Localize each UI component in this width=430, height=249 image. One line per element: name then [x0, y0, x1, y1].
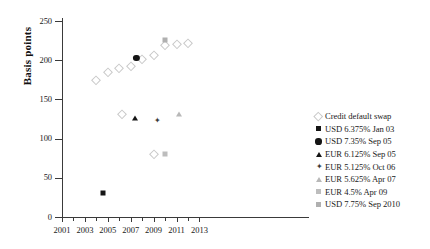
legend-label: USD 7.35% Sep 05 — [325, 136, 392, 146]
data-point — [116, 65, 123, 72]
y-tick-label: 50 — [8, 173, 52, 182]
legend-label: Credit default swap — [325, 111, 391, 121]
data-point — [139, 56, 146, 63]
data-point — [185, 40, 192, 47]
legend-marker-square-gray-icon — [312, 186, 325, 199]
marker-square-gray2-icon — [316, 202, 321, 207]
data-point — [93, 77, 100, 84]
x-tick-minor — [73, 217, 74, 221]
legend-label: EUR 4.5% Apr 09 — [325, 187, 387, 197]
data-point — [132, 116, 138, 121]
x-tick — [177, 217, 178, 222]
data-point — [127, 63, 134, 70]
marker-triangle-filled — [132, 116, 138, 121]
x-tick — [154, 217, 155, 222]
x-tick-minor — [142, 217, 143, 221]
plot-area — [62, 21, 302, 217]
data-point — [173, 40, 180, 47]
legend-label: EUR 5.125% Oct 06 — [325, 162, 395, 172]
legend-marker-star4-icon: ✦ — [312, 160, 325, 173]
x-tick-minor — [188, 217, 189, 221]
marker-diamond-open — [126, 62, 135, 71]
data-point — [150, 51, 157, 58]
legend-item[interactable]: USD 6.375% Jan 03 — [312, 123, 430, 136]
marker-diamond-open — [149, 150, 158, 159]
y-tick — [55, 60, 62, 61]
x-tick — [108, 217, 109, 222]
marker-square-gray — [163, 152, 168, 157]
marker-square-filled — [101, 191, 106, 196]
marker-square-filled-icon — [316, 126, 321, 131]
data-point — [163, 152, 168, 157]
y-tick — [55, 217, 62, 218]
marker-square-gray-icon — [316, 189, 321, 194]
legend-marker-circle-filled-icon — [312, 135, 325, 148]
legend-label: EUR 5.625% Apr 07 — [325, 174, 396, 184]
chart-legend: Credit default swapUSD 6.375% Jan 03USD … — [312, 110, 430, 211]
y-tick-label: 100 — [8, 134, 52, 143]
marker-diamond-open — [117, 110, 126, 119]
legend-marker-square-filled-icon — [312, 123, 325, 136]
legend-item[interactable]: USD 7.75% Sep 2010 — [312, 198, 430, 211]
x-tick — [131, 217, 132, 222]
marker-star4-icon: ✦ — [316, 164, 322, 170]
x-tick-minor — [165, 217, 166, 221]
legend-label: EUR 6.125% Sep 05 — [325, 149, 396, 159]
y-tick — [55, 178, 62, 179]
chart-figure: Basis points 050100150200250 20012003200… — [0, 0, 430, 249]
x-tick-label: 2013 — [179, 226, 219, 235]
legend-item[interactable]: EUR 5.625% Apr 07 — [312, 173, 430, 186]
legend-label: USD 7.75% Sep 2010 — [325, 199, 400, 209]
x-tick — [199, 217, 200, 222]
x-tick-minor — [119, 217, 120, 221]
y-tick-label: 0 — [8, 213, 52, 222]
x-tick — [62, 217, 63, 222]
legend-item[interactable]: EUR 6.125% Sep 05 — [312, 148, 430, 161]
marker-diamond-open — [103, 67, 112, 76]
legend-label: USD 6.375% Jan 03 — [325, 124, 394, 134]
legend-item[interactable]: EUR 4.5% Apr 09 — [312, 186, 430, 199]
data-point — [101, 191, 106, 196]
data-point — [150, 151, 157, 158]
x-tick — [85, 217, 86, 222]
y-tick — [55, 21, 62, 22]
marker-diamond-open-icon — [314, 112, 323, 121]
y-tick — [55, 99, 62, 100]
marker-triangle-gray — [176, 112, 182, 117]
legend-marker-square-gray2-icon — [312, 198, 325, 211]
data-point — [163, 37, 168, 42]
data-point — [105, 69, 112, 76]
legend-marker-triangle-filled-icon — [312, 148, 325, 161]
y-tick-label: 200 — [8, 56, 52, 65]
marker-triangle-gray-icon — [316, 177, 322, 182]
legend-marker-triangle-gray-icon — [312, 173, 325, 186]
y-tick-label: 250 — [8, 17, 52, 26]
marker-circle-filled-icon — [315, 138, 321, 144]
marker-diamond-open — [115, 63, 124, 72]
data-point — [176, 112, 182, 117]
data-point: ✦ — [154, 118, 160, 124]
marker-star4: ✦ — [154, 118, 160, 124]
x-axis-line — [62, 217, 309, 218]
marker-square-gray2 — [163, 37, 168, 42]
legend-marker-diamond-open-icon — [312, 110, 325, 123]
x-tick-minor — [96, 217, 97, 221]
marker-circle-filled — [133, 55, 139, 61]
legend-item[interactable]: USD 7.35% Sep 05 — [312, 135, 430, 148]
y-tick — [55, 139, 62, 140]
legend-item[interactable]: ✦EUR 5.125% Oct 06 — [312, 160, 430, 173]
marker-diamond-open — [183, 38, 192, 47]
data-point — [133, 55, 139, 61]
data-point — [118, 111, 125, 118]
y-tick-label: 150 — [8, 95, 52, 104]
legend-item[interactable]: Credit default swap — [312, 110, 430, 123]
marker-triangle-filled-icon — [316, 152, 322, 157]
marker-diamond-open — [92, 75, 101, 84]
marker-diamond-open — [149, 50, 158, 59]
marker-diamond-open — [172, 39, 181, 48]
